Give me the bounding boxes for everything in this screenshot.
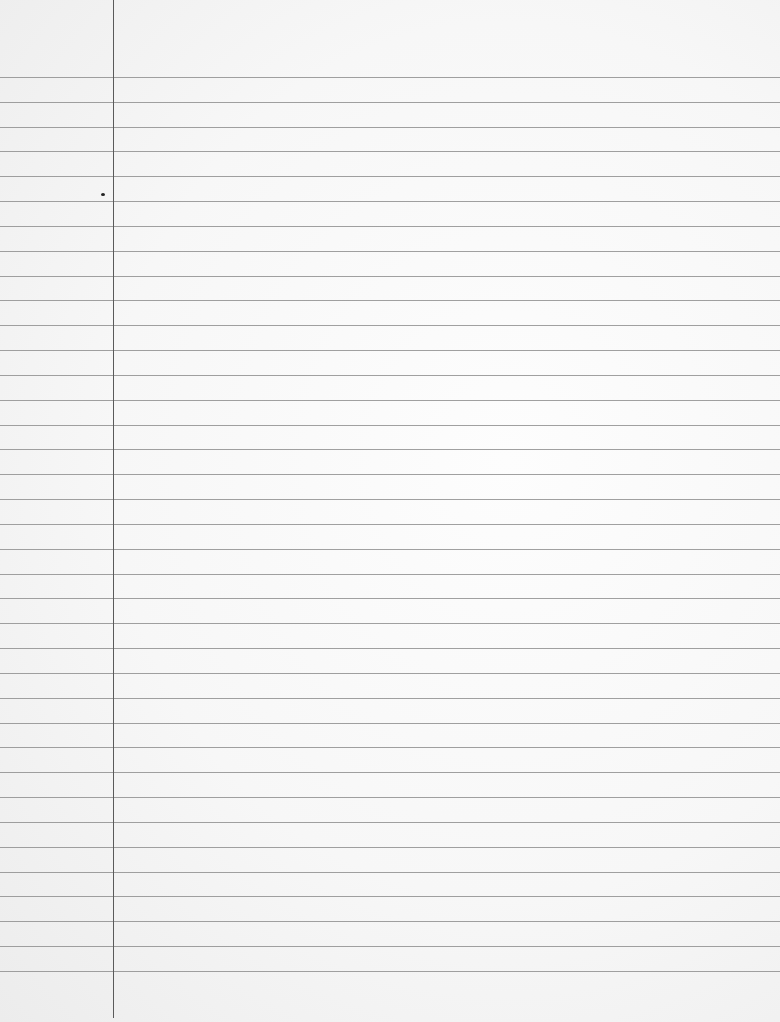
ruled-line — [0, 176, 780, 177]
ruled-line — [0, 971, 780, 972]
ruled-line — [0, 276, 780, 277]
ruled-line — [0, 151, 780, 152]
ruled-line — [0, 549, 780, 550]
ruled-line — [0, 251, 780, 252]
ruled-line — [0, 921, 780, 922]
ruled-line — [0, 896, 780, 897]
ruled-line — [0, 946, 780, 947]
ruled-line — [0, 127, 780, 128]
ruled-line — [0, 872, 780, 873]
ruled-line — [0, 226, 780, 227]
ruled-line — [0, 499, 780, 500]
ruled-line — [0, 425, 780, 426]
ruled-line — [0, 524, 780, 525]
ruled-line — [0, 847, 780, 848]
ruled-line — [0, 574, 780, 575]
ruled-line — [0, 201, 780, 202]
ruled-line — [0, 325, 780, 326]
ruled-line — [0, 449, 780, 450]
ruled-line — [0, 350, 780, 351]
ruled-line — [0, 598, 780, 599]
ruled-line — [0, 698, 780, 699]
ruled-line — [0, 673, 780, 674]
ruled-line — [0, 474, 780, 475]
ink-dot — [101, 193, 105, 196]
ruled-line — [0, 102, 780, 103]
margin-line — [113, 0, 114, 1018]
ruled-line — [0, 300, 780, 301]
ruled-line — [0, 400, 780, 401]
ruled-line — [0, 822, 780, 823]
ruled-line — [0, 623, 780, 624]
ruled-line — [0, 723, 780, 724]
ruled-line — [0, 648, 780, 649]
lined-paper-sheet — [0, 0, 780, 1022]
ruled-line — [0, 772, 780, 773]
ruled-line — [0, 375, 780, 376]
ruled-line — [0, 77, 780, 78]
ruled-line — [0, 747, 780, 748]
ruled-line — [0, 797, 780, 798]
